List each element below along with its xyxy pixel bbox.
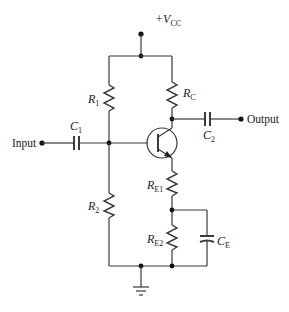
ground-icon [133, 266, 149, 295]
capacitor-c2: C2 [172, 112, 241, 144]
resistor-re1: RE1 [146, 158, 177, 225]
resistor-r1: R1 [87, 56, 114, 143]
vcc-supply: +VCC [138, 12, 181, 58]
c1-label: C1 [70, 119, 82, 135]
c2-label: C2 [203, 128, 215, 144]
input-label: Input [12, 137, 37, 150]
output-label: Output [247, 113, 280, 126]
capacitor-c1: C1 [42, 119, 148, 150]
amplifier-schematic: +VCC R1 RC C2 Output Input C1 [0, 0, 289, 312]
rc-label: RC [182, 86, 196, 102]
re1-label: RE1 [146, 178, 163, 194]
ce-label: CE [217, 234, 230, 250]
r2-label: R2 [87, 199, 99, 215]
output-terminal [238, 116, 243, 121]
vcc-label: +VCC [155, 12, 181, 28]
resistor-re2: RE2 [146, 225, 177, 266]
resistor-r2: R2 [87, 143, 114, 266]
r1-label: R1 [87, 92, 99, 108]
capacitor-ce: CE [172, 210, 230, 266]
re2-label: RE2 [146, 232, 163, 248]
re2-bottom-node [170, 264, 175, 269]
npn-transistor-q1 [147, 128, 177, 158]
